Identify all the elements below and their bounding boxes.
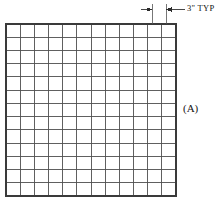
callout-label-a: (A) bbox=[183, 103, 198, 114]
grid-panel bbox=[6, 24, 176, 196]
grid-vertical-lines bbox=[6, 24, 176, 196]
dimension-annotation-3-typ bbox=[141, 4, 185, 24]
dimension-label-3-typ: 3" TYP bbox=[187, 4, 215, 13]
dimension-arrow-right-icon bbox=[166, 7, 172, 12]
dimension-arrow-left-icon bbox=[147, 7, 153, 12]
